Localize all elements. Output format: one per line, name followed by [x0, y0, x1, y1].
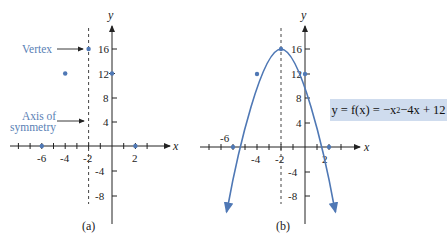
- x-tick-label: -2: [275, 153, 284, 165]
- x-tick-label: -2: [83, 152, 92, 164]
- y-tick-label: -4: [288, 166, 298, 178]
- caption-b: (b): [276, 219, 290, 233]
- equation-rhs: −4x + 12: [400, 103, 445, 118]
- x-tick-label: 2: [132, 152, 138, 164]
- y-tick-label: 8: [103, 92, 109, 104]
- point: [303, 72, 307, 76]
- y-tick-label: 16: [291, 43, 303, 55]
- axis-of-symmetry-label-line2: symmetry: [10, 121, 56, 134]
- curve-arrow-left: [227, 203, 229, 212]
- point: [327, 145, 331, 149]
- y-tick-label: -4: [95, 165, 105, 177]
- point: [255, 72, 259, 76]
- curve-arrow-right: [334, 203, 336, 212]
- y-tick-label: 8: [296, 92, 302, 104]
- x-tick-label: -6: [37, 152, 47, 164]
- vertex-label: Vertex: [22, 43, 52, 55]
- y-ticks: [305, 49, 310, 196]
- x-tick-label: -4: [60, 152, 70, 164]
- point: [110, 71, 114, 75]
- x-tick-label: -4: [251, 153, 261, 165]
- vertex-point: [86, 47, 90, 51]
- point: [231, 145, 235, 149]
- y-tick-label: -8: [288, 190, 298, 202]
- point: [63, 71, 67, 75]
- y-tick-label: -8: [95, 190, 105, 202]
- y-axis-label: y: [107, 8, 114, 22]
- x-axis-label: x: [363, 140, 370, 154]
- caption-a: (a): [82, 219, 95, 233]
- x-axis-label: x: [172, 139, 179, 153]
- y-tick-label: 12: [98, 68, 109, 80]
- y-ticks: [109, 49, 117, 196]
- point: [40, 144, 44, 148]
- equation-lhs: y = f(x) = −x: [331, 103, 396, 118]
- point: [133, 144, 137, 148]
- y-tick-label: 4: [103, 116, 109, 128]
- y-tick-label: 4: [296, 117, 302, 129]
- plotted-points: [231, 47, 331, 149]
- equation-label: y = f(x) = −x2 −4x + 12: [330, 99, 447, 121]
- y-axis-label: y: [300, 8, 307, 22]
- x-tick-label: -6: [220, 132, 230, 144]
- panel-a: x y -6 -4 -2 2: [10, 8, 179, 233]
- y-tick-label: 16: [98, 43, 110, 55]
- vertex-point: [279, 47, 283, 51]
